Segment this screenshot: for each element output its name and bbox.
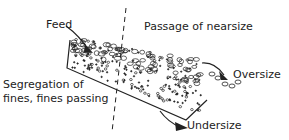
particle bbox=[182, 102, 183, 103]
particle bbox=[84, 65, 85, 66]
particle bbox=[197, 103, 198, 104]
particle bbox=[192, 92, 193, 93]
particle bbox=[124, 73, 125, 74]
particle bbox=[159, 60, 160, 61]
particle bbox=[143, 89, 144, 90]
particle bbox=[134, 86, 135, 87]
particle bbox=[106, 72, 107, 73]
particle bbox=[168, 65, 175, 68]
particle bbox=[169, 99, 170, 100]
particle bbox=[115, 81, 116, 82]
particle bbox=[109, 52, 115, 55]
particle bbox=[74, 62, 75, 63]
particle bbox=[75, 55, 76, 56]
particle bbox=[154, 71, 157, 73]
label-segregation-line2: fines, fines passing bbox=[3, 92, 108, 105]
particle bbox=[169, 88, 170, 89]
particle bbox=[185, 100, 186, 101]
particle bbox=[90, 63, 91, 64]
particle bbox=[83, 60, 84, 61]
particle bbox=[184, 90, 187, 92]
particle bbox=[169, 85, 170, 86]
particle bbox=[178, 85, 179, 86]
particle bbox=[183, 86, 186, 88]
particle bbox=[101, 76, 102, 77]
particle bbox=[200, 95, 201, 96]
particle bbox=[179, 81, 182, 83]
dashed-divider bbox=[112, 8, 126, 132]
particle bbox=[199, 79, 200, 80]
particle bbox=[112, 61, 113, 62]
label-undersize: Undersize bbox=[187, 119, 242, 132]
particle bbox=[98, 70, 101, 72]
particle bbox=[173, 71, 178, 75]
oversize-particle bbox=[229, 84, 235, 88]
particle bbox=[116, 69, 119, 71]
particle bbox=[186, 93, 187, 94]
particle bbox=[160, 65, 161, 66]
particle bbox=[97, 69, 98, 70]
particle bbox=[116, 54, 117, 55]
particle bbox=[108, 47, 113, 51]
particle bbox=[153, 60, 156, 62]
particle bbox=[74, 46, 75, 47]
particle bbox=[93, 41, 94, 42]
particle bbox=[89, 65, 92, 67]
particle bbox=[106, 65, 109, 67]
particle bbox=[131, 83, 134, 85]
particle bbox=[100, 47, 101, 48]
label-oversize: Oversize bbox=[233, 68, 281, 81]
particle bbox=[172, 91, 173, 92]
particle bbox=[168, 69, 169, 70]
particle bbox=[197, 73, 204, 77]
particle bbox=[175, 84, 176, 85]
particle bbox=[135, 72, 138, 74]
particle bbox=[127, 62, 133, 65]
particle bbox=[126, 69, 127, 70]
label-nearsize: Passage of nearsize bbox=[144, 20, 253, 33]
particle bbox=[198, 104, 199, 105]
particle bbox=[124, 80, 125, 81]
particle bbox=[178, 79, 179, 80]
particle bbox=[132, 60, 133, 61]
particle bbox=[179, 86, 180, 87]
particle bbox=[133, 76, 134, 77]
particle bbox=[166, 59, 167, 60]
particle bbox=[103, 62, 104, 63]
particle bbox=[191, 109, 194, 111]
label-feed: Feed bbox=[46, 18, 72, 31]
particle bbox=[86, 55, 87, 56]
particle bbox=[148, 80, 149, 81]
particle bbox=[102, 71, 103, 72]
particle bbox=[136, 87, 137, 88]
particle bbox=[167, 54, 173, 58]
screening-diagram: Feed Passage of nearsize Oversize Segreg… bbox=[0, 0, 289, 140]
particle bbox=[144, 92, 147, 94]
particle bbox=[112, 56, 113, 57]
particle bbox=[157, 92, 160, 94]
oversize-particle bbox=[209, 72, 215, 76]
particle bbox=[101, 65, 102, 66]
particle bbox=[125, 65, 126, 66]
oversize-particle bbox=[215, 76, 221, 80]
particle bbox=[131, 86, 132, 87]
particle bbox=[87, 68, 88, 69]
particle bbox=[194, 81, 200, 85]
particle bbox=[173, 90, 176, 92]
particle bbox=[195, 90, 196, 91]
particle bbox=[177, 102, 178, 103]
particle bbox=[162, 89, 165, 91]
particle bbox=[107, 61, 110, 63]
particle bbox=[166, 99, 169, 101]
particle bbox=[179, 106, 182, 108]
particle bbox=[138, 88, 139, 89]
particle bbox=[192, 65, 197, 68]
particle bbox=[174, 101, 175, 102]
particle bbox=[132, 49, 138, 53]
particle bbox=[189, 75, 194, 78]
particle bbox=[72, 67, 73, 68]
particle bbox=[138, 82, 139, 83]
particle bbox=[74, 67, 75, 68]
particle bbox=[196, 63, 197, 64]
particle bbox=[167, 78, 168, 79]
